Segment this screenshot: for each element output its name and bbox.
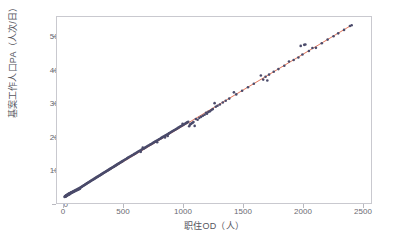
data-point [343, 29, 346, 32]
data-point [192, 121, 195, 124]
data-point [213, 102, 216, 105]
data-point [292, 59, 295, 62]
data-point [288, 60, 291, 63]
data-point [224, 99, 227, 102]
data-point [260, 74, 263, 77]
data-point [299, 45, 302, 48]
data-point [301, 53, 304, 56]
y-axis-title: 基案工作人口PA（人次/日） [6, 0, 19, 126]
data-point [241, 90, 244, 93]
data-point [332, 35, 335, 38]
data-point [193, 125, 196, 128]
data-point [228, 97, 231, 100]
x-tick-label-500: 500 [103, 207, 143, 216]
data-point [221, 101, 224, 104]
x-tick-label-2500: 2500 [343, 207, 383, 216]
data-point [262, 78, 265, 81]
x-axis-title: 职住OD（人） [56, 219, 372, 232]
data-point [219, 103, 222, 106]
plot-area [56, 16, 372, 204]
data-point [277, 68, 280, 71]
data-point [350, 24, 353, 27]
data-point [321, 42, 324, 45]
x-tick-label-1000: 1000 [163, 207, 203, 216]
scatter-plot-figure: 5000 4000 3000 2000 1000 0 0 500 1000 15… [0, 0, 394, 241]
data-point [266, 79, 269, 82]
data-point [326, 38, 329, 41]
x-tick-label-1500: 1500 [223, 207, 263, 216]
data-point [283, 64, 286, 67]
data-point [304, 43, 307, 46]
data-point [308, 50, 311, 53]
plot-canvas [57, 17, 371, 203]
x-tick-label-0: 0 [43, 207, 83, 216]
data-point [272, 71, 275, 74]
data-point [315, 47, 318, 50]
data-point [337, 32, 340, 35]
data-point [235, 93, 238, 96]
data-point [264, 75, 267, 78]
scatter-points [63, 24, 353, 198]
data-point [196, 118, 199, 121]
data-point [212, 108, 215, 111]
data-point [187, 121, 190, 124]
data-point [311, 47, 314, 50]
x-tick-label-2000: 2000 [283, 207, 323, 216]
data-point [297, 56, 300, 59]
data-point [253, 83, 256, 86]
data-point [233, 91, 236, 94]
data-point [247, 86, 250, 89]
data-point [216, 104, 219, 107]
data-point [268, 73, 271, 76]
